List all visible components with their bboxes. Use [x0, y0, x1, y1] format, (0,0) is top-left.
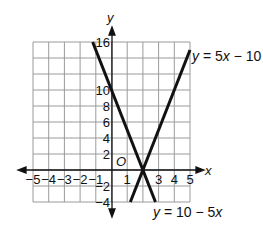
x-tick-label: −2	[73, 172, 88, 187]
x-tick-label: −3	[57, 172, 72, 187]
y-tick-label: 10	[96, 83, 110, 98]
coordinate-graph: −5−4−3−2−1134516108642−2−4 x y O y = 5x …	[0, 0, 263, 231]
x-axis-label: x	[204, 163, 212, 178]
line-label-10-minus-5x: y = 10 − 5x	[152, 204, 223, 220]
line-label-5x-minus-10: y = 5x − 10	[191, 48, 261, 64]
x-axis-arrow-right-icon	[196, 167, 204, 173]
y-tick-label: 4	[103, 131, 110, 146]
x-tick-label: −4	[41, 172, 56, 187]
y-axis-label: y	[106, 10, 115, 25]
y-axis-arrow-up-icon	[109, 27, 115, 35]
y-tick-label: 8	[103, 99, 110, 114]
origin-label: O	[116, 154, 126, 169]
x-tick-label: 5	[186, 172, 193, 187]
x-tick-label: −5	[26, 172, 41, 187]
y-tick-label: 2	[103, 147, 110, 162]
y-axis-arrow-down-icon	[109, 209, 115, 217]
x-tick-label: 3	[155, 172, 162, 187]
x-tick-label: 4	[171, 172, 178, 187]
y-tick-label: 6	[103, 115, 110, 130]
x-tick-label: 1	[124, 172, 131, 187]
y-tick-label: 16	[96, 35, 110, 50]
y-tick-label: −4	[95, 195, 110, 210]
y-tick-label: −2	[95, 179, 110, 194]
